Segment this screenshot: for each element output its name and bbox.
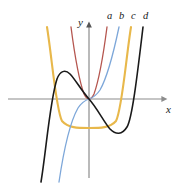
x-axis-label: x [166, 104, 171, 115]
power-function-graph-figure: y x a b c d [0, 0, 177, 185]
y-axis-label: y [78, 17, 83, 28]
curve-label-d: d [143, 11, 148, 22]
curve-label-b: b [119, 11, 124, 22]
curve-label-a: a [107, 11, 112, 22]
plot-canvas [0, 0, 177, 185]
curve-label-c: c [131, 11, 136, 22]
